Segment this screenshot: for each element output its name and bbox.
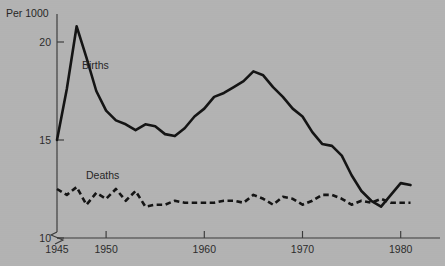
x-tick-label: 1960 bbox=[193, 243, 217, 255]
y-axis-ticks: 101520 bbox=[39, 36, 64, 244]
axes-group bbox=[51, 14, 440, 244]
y-axis-label: Per 1000 bbox=[6, 7, 49, 19]
x-tick-label: 1950 bbox=[94, 243, 118, 255]
deaths-series-label: Deaths bbox=[86, 169, 119, 181]
y-tick-label: 15 bbox=[39, 134, 51, 146]
x-tick-label: 1980 bbox=[389, 243, 413, 255]
x-tick-label: 1945 bbox=[45, 243, 69, 255]
series-line-deaths bbox=[57, 187, 411, 207]
x-tick-label: 1970 bbox=[291, 243, 315, 255]
y-tick-label: 20 bbox=[39, 36, 51, 48]
x-axis-ticks: 19451950196019701980 bbox=[45, 231, 412, 255]
chart-canvas: 101520 19451950196019701980 Per 1000 Bir… bbox=[0, 0, 445, 266]
births-series-label: Births bbox=[82, 59, 109, 71]
vital-statistics-line-chart: 101520 19451950196019701980 Per 1000 Bir… bbox=[0, 0, 445, 266]
